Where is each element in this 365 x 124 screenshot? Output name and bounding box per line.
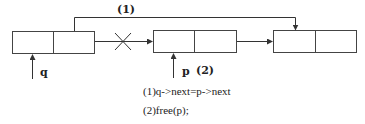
step-1: (1)q->next=p->next [143,85,231,97]
bypass-link-arrow [75,18,296,32]
step-2-number: (2) [143,104,156,116]
pointer-q-label: q [40,66,48,79]
step-two-label: (2) [196,64,214,77]
node-next [274,31,357,53]
node-p [154,31,237,53]
pointer-p-label: p [182,65,190,78]
step-2: (2)free(p); [143,104,189,116]
node-q [13,32,95,54]
step-1-code: q->next=p->next [156,85,231,97]
bypass-link-label: (1) [117,3,135,16]
step-2-code: free(p); [156,104,189,116]
step-1-number: (1) [143,85,156,97]
